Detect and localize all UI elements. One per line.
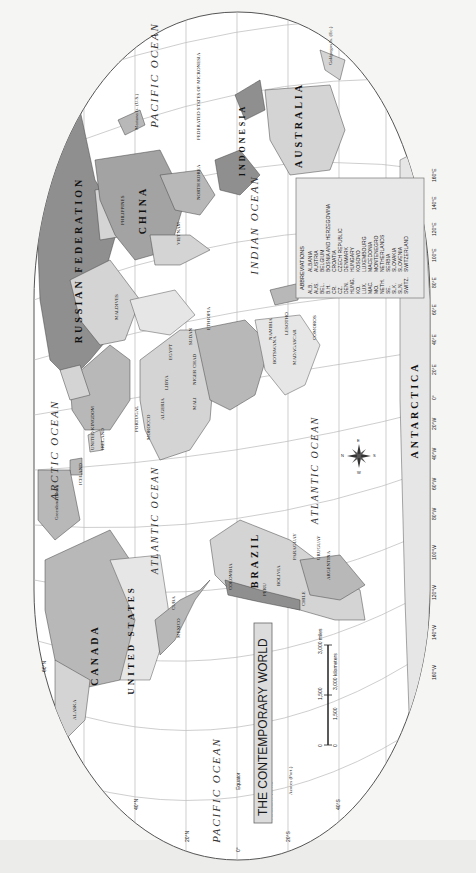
svg-text:SWITZ.: SWITZ. [403, 277, 409, 294]
svg-text:NAMIBIA: NAMIBIA [268, 318, 273, 340]
svg-text:160°W: 160°W [431, 665, 437, 680]
label-canada: CANADA [89, 624, 100, 685]
svg-text:PARAGUAY: PARAGUAY [292, 533, 297, 560]
label-indian-ocean: INDIAN OCEAN [248, 175, 260, 275]
svg-text:ETHIOPIA: ETHIOPIA [206, 307, 211, 330]
svg-text:80°W: 80°W [431, 507, 437, 520]
svg-text:LIBYA: LIBYA [164, 375, 169, 390]
svg-text:1,500: 1,500 [317, 687, 323, 700]
world-map: ARCTIC OCEAN PACIFIC OCEAN PACIFIC OCEAN… [0, 0, 476, 873]
svg-text:100°E: 100°E [431, 248, 437, 262]
abbreviations-heading: ABBREVIATIONS [299, 246, 305, 290]
svg-text:FEDERATED STATES OF MICRONESIA: FEDERATED STATES OF MICRONESIA [196, 52, 201, 140]
svg-text:60°N: 60°N [41, 660, 47, 672]
label-pacific-ocean-west: PACIFIC OCEAN [210, 737, 222, 844]
svg-text:PORTUGAL: PORTUGAL [134, 406, 139, 432]
svg-text:20°E: 20°E [431, 363, 437, 375]
svg-text:MALI: MALI [192, 397, 197, 410]
label-atlantic-ocean-south: ATLANTIC OCEAN [309, 416, 320, 525]
label-russia: RUSSIAN FEDERATION [73, 177, 84, 343]
svg-text:ARGENTINA: ARGENTINA [326, 550, 331, 580]
label-brazil: BRAZIL [249, 532, 260, 588]
svg-text:20°W: 20°W [431, 417, 437, 430]
svg-text:Galápagos Is. (Ec.): Galápagos Is. (Ec.) [328, 26, 333, 65]
svg-text:40°E: 40°E [431, 333, 437, 345]
svg-text:0°: 0° [431, 395, 437, 400]
svg-text:ALASKA: ALASKA [72, 699, 77, 720]
svg-text:LESOTHO: LESOTHO [284, 312, 289, 335]
svg-text:0: 0 [317, 744, 323, 747]
svg-text:140°W: 140°W [431, 625, 437, 640]
svg-text:UNITED KINGDOM: UNITED KINGDOM [90, 405, 95, 450]
svg-text:ALGERIA: ALGERIA [160, 398, 165, 420]
svg-text:160°E: 160°E [431, 168, 437, 182]
svg-text:EGYPT: EGYPT [168, 344, 173, 360]
label-united-states: UNITED STATES [126, 585, 136, 694]
label-atlantic-ocean-north: ATLANTIC OCEAN [149, 466, 160, 575]
svg-text:40°S: 40°S [335, 798, 341, 810]
svg-text:0°: 0° [235, 847, 241, 852]
svg-text:Equator: Equator [235, 772, 241, 790]
svg-text:Greenland (Den.): Greenland (Den.) [54, 485, 59, 520]
svg-text:PHILIPPINES: PHILIPPINES [120, 195, 125, 225]
svg-text:COLOMBIA: COLOMBIA [228, 563, 233, 590]
svg-text:VIETNAM: VIETNAM [176, 221, 181, 245]
svg-text:PERU: PERU [262, 583, 267, 596]
svg-text:3,000 kilometers: 3,000 kilometers [332, 653, 338, 690]
svg-text:NIGER: NIGER [192, 369, 197, 385]
svg-text:Azores (Port.): Azores (Port.) [288, 766, 293, 795]
svg-text:Mariana Is. (U.S.): Mariana Is. (U.S.) [134, 93, 139, 130]
svg-text:0: 0 [332, 744, 338, 747]
svg-text:40°N: 40°N [133, 798, 139, 810]
svg-text:20°S: 20°S [285, 830, 291, 842]
label-indonesia: INDONESIA [238, 104, 247, 176]
map-title-box: THE CONTEMPORARY WORLD [254, 623, 272, 823]
svg-text:60°W: 60°W [431, 477, 437, 490]
svg-text:E: E [357, 438, 360, 443]
svg-text:60°E: 60°E [431, 303, 437, 315]
longitude-labels: 160°W 140°W 120°W 100°W 80°W 60°W 40°W 2… [431, 168, 437, 680]
svg-text:SWITZERLAND: SWITZERLAND [403, 236, 409, 272]
svg-text:140°E: 140°E [431, 196, 437, 210]
svg-text:N: N [341, 453, 344, 458]
label-pacific-ocean-east: PACIFIC OCEAN [148, 22, 160, 129]
svg-text:CUBA: CUBA [171, 596, 176, 610]
svg-text:W: W [357, 470, 361, 475]
abbreviations-legend: ABBREVIATIONS ALB. ALBANIA AUS. AUSTRIA … [296, 178, 424, 298]
label-china: CHINA [137, 186, 148, 234]
svg-text:MADAGASCAR: MADAGASCAR [292, 329, 297, 365]
svg-text:URUGUAY: URUGUAY [316, 535, 321, 560]
svg-text:120°E: 120°E [431, 222, 437, 236]
svg-text:MOROCCO: MOROCCO [146, 414, 151, 440]
svg-text:80°E: 80°E [431, 276, 437, 288]
svg-text:MALDIVES: MALDIVES [114, 294, 119, 320]
svg-text:MEXICO: MEXICO [176, 618, 181, 638]
label-antarctica: ANTARCTICA [409, 361, 420, 458]
map-title: THE CONTEMPORARY WORLD [256, 638, 270, 816]
svg-text:CHAD: CHAD [192, 353, 197, 368]
svg-text:ICELAND: ICELAND [78, 463, 83, 485]
svg-text:3,000 miles: 3,000 miles [317, 628, 323, 654]
svg-text:CHILE: CHILE [301, 591, 306, 606]
svg-text:100°W: 100°W [431, 545, 437, 560]
svg-text:NORTH KOREA: NORTH KOREA [196, 164, 201, 200]
svg-text:IRELAND: IRELAND [100, 428, 105, 450]
svg-text:40°W: 40°W [431, 447, 437, 460]
label-australia: AUSTRALIA [293, 82, 304, 168]
svg-text:S: S [373, 453, 376, 458]
svg-text:SUDAN: SUDAN [188, 327, 193, 345]
svg-text:120°W: 120°W [431, 585, 437, 600]
svg-text:1,500: 1,500 [332, 707, 338, 720]
svg-text:BOLIVIA: BOLIVIA [276, 565, 281, 586]
svg-text:COMOROS: COMOROS [312, 315, 317, 340]
svg-text:20°N: 20°N [184, 830, 190, 842]
